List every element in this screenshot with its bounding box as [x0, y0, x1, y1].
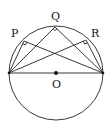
chord-a-p — [9, 41, 24, 73]
label-p: P — [11, 27, 19, 40]
chord-a-r — [9, 40, 86, 73]
endpoint-a — [8, 72, 11, 75]
label-q: Q — [51, 10, 60, 23]
center-point-o — [54, 71, 58, 75]
circle-diagram: P Q R O — [0, 0, 112, 136]
endpoint-b — [102, 72, 105, 75]
right-angle-q — [53, 29, 57, 31]
label-o: O — [52, 78, 61, 91]
label-r: R — [91, 27, 100, 40]
